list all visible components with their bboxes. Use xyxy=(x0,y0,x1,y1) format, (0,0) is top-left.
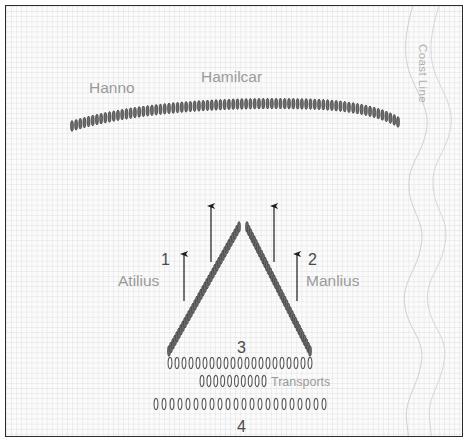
diagram-frame: Hanno Hamilcar Atilius Manlius Transport… xyxy=(5,5,463,437)
label-squadron-1: 1 xyxy=(161,251,170,269)
diagram-page: Hanno Hamilcar Atilius Manlius Transport… xyxy=(0,0,469,443)
label-atilius: Atilius xyxy=(118,272,159,290)
squadron-4-row xyxy=(154,398,326,409)
squadron-3-row xyxy=(168,357,312,368)
label-manlius: Manlius xyxy=(306,272,359,290)
label-hamilcar: Hamilcar xyxy=(201,68,262,86)
fleet-line-hamilcar-hanno xyxy=(71,98,400,131)
wedge-left-arm xyxy=(168,222,241,357)
label-squadron-3: 3 xyxy=(237,339,246,357)
label-squadron-4: 4 xyxy=(237,418,246,436)
transports-row xyxy=(200,375,266,386)
label-squadron-2: 2 xyxy=(308,251,317,269)
label-coast-line: Coast Line xyxy=(417,44,429,103)
wedge-right-arm xyxy=(246,222,312,357)
coast-outer-path xyxy=(427,6,451,437)
label-transports: Transports xyxy=(271,375,330,389)
label-hanno: Hanno xyxy=(89,79,135,97)
